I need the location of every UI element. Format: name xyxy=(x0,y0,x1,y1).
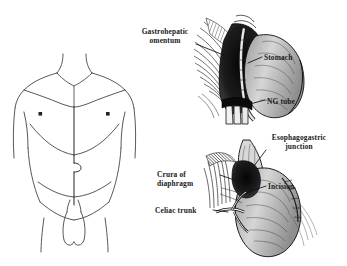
label-esophagogastric-junction: Esophagogastric junction xyxy=(259,133,339,151)
label-gastrohepatic-omentum: Gastrohepatic omentum xyxy=(126,27,204,45)
retractor-blades xyxy=(222,98,252,124)
anterior-torso-drawing xyxy=(13,54,135,252)
crura-shape xyxy=(206,153,236,166)
upper-operative-view xyxy=(194,15,304,124)
surgical-illustration-figure: Gastrohepatic omentum Stomach NG tube Es… xyxy=(0,0,347,266)
nipple-marker-right xyxy=(106,112,110,116)
label-crura-of-diaphragm: Crura of diaphragm xyxy=(157,170,219,188)
nipple-marker-left xyxy=(39,112,43,116)
label-incision: Incision xyxy=(268,182,294,191)
label-ng-tube: NG tube xyxy=(267,97,295,106)
label-stomach: Stomach xyxy=(264,53,293,62)
label-celiac-trunk: Celiac trunk xyxy=(155,206,196,215)
